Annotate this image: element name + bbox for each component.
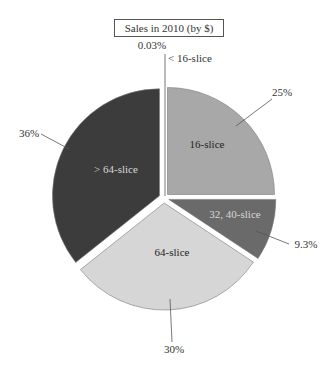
leader-line-gt64 [41, 134, 69, 149]
pct-label-lt16: 0.03% [138, 39, 166, 51]
slice-label-16: 16-slice [190, 138, 225, 150]
pct-label-16: 25% [272, 86, 292, 98]
leader-line-16 [236, 99, 272, 126]
chart-title-box: Sales in 2010 (by $) [115, 20, 224, 37]
pct-label-gt64: 36% [19, 127, 39, 139]
slice-16: 16-slice 25% [168, 86, 293, 195]
slice-label-lt16: < 16-slice [168, 52, 212, 64]
pct-label-32-40: 9.3% [295, 238, 318, 250]
slice-label-32-40: 32, 40-slice [209, 208, 260, 220]
slice-label-64: 64-slice [155, 246, 190, 258]
pct-label-64: 30% [164, 343, 184, 355]
slice-label-gt64: > 64-slice [94, 163, 138, 175]
pie-chart: Sales in 2010 (by $) 0.03% < 16-slice 16… [0, 0, 336, 373]
chart-title: Sales in 2010 (by $) [125, 22, 214, 35]
